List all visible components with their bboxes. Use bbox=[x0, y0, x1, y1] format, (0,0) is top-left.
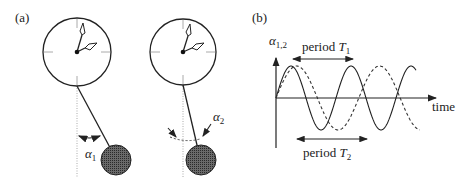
alpha-2-label: α2 bbox=[213, 109, 224, 126]
clock-1-icon bbox=[43, 18, 111, 86]
angle-arc-1 bbox=[79, 136, 100, 138]
period-2-label: period T2 bbox=[303, 145, 351, 162]
pendulum-2: α2 bbox=[168, 85, 224, 178]
panel-b-label: (b) bbox=[252, 10, 267, 25]
panel-a-label: (a) bbox=[15, 10, 29, 25]
y-axis-label: α1,2 bbox=[269, 33, 287, 50]
clock-2-icon bbox=[150, 19, 216, 85]
period-1-label: period T1 bbox=[302, 39, 350, 56]
pendulum-1: α1 bbox=[77, 86, 131, 178]
figure-canvas: (a) α1 bbox=[0, 0, 468, 178]
alpha-1-label: α1 bbox=[85, 146, 96, 163]
x-axis-label: time bbox=[432, 99, 455, 114]
